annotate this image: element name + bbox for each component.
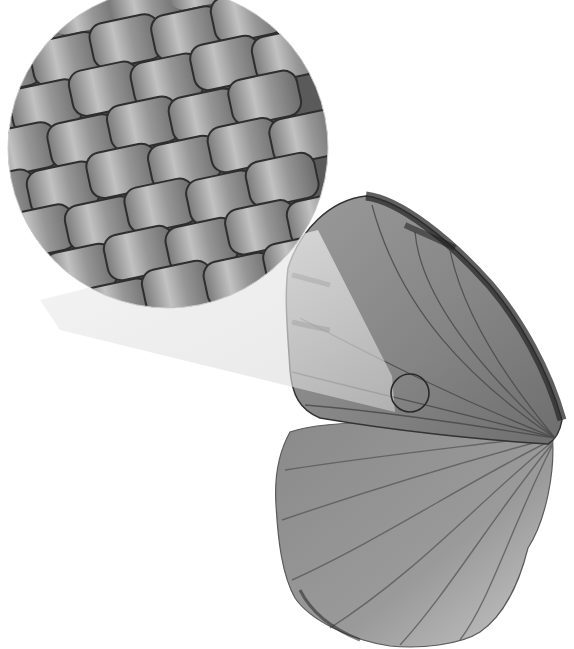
figure-canvas: Butterfly wing scales (magnified) xyxy=(0,0,574,649)
hind-wing xyxy=(276,422,553,647)
butterfly-wing-illustration xyxy=(0,0,574,649)
